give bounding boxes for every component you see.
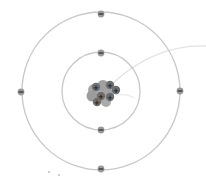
svg-text:+: + (93, 84, 99, 92)
svg-text:+: + (113, 87, 119, 95)
electron (18, 89, 25, 96)
speck (48, 171, 49, 172)
electron (98, 11, 105, 18)
svg-text:+: + (94, 99, 100, 107)
electron (98, 127, 105, 134)
proton: + (93, 98, 101, 107)
proton: + (106, 93, 114, 102)
atom-diagram: + + + + + + (0, 0, 206, 180)
speck (58, 174, 59, 175)
electron (98, 50, 105, 57)
electron (177, 88, 184, 95)
electron (98, 166, 105, 173)
svg-text:+: + (107, 94, 113, 102)
pointer-line-short (116, 95, 134, 98)
proton: + (112, 86, 120, 95)
pointer-line (112, 46, 206, 84)
nucleus: + + + + + + (87, 80, 121, 107)
